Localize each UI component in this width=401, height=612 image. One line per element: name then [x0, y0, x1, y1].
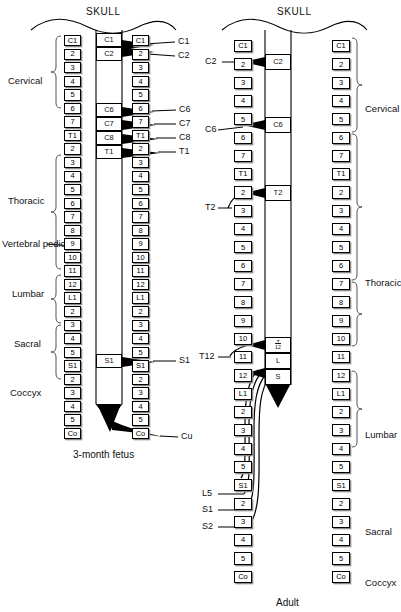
left-inner-vertebra-8: 8: [132, 225, 149, 236]
left-vertebra-4: 4: [64, 333, 81, 344]
left-inner-vertebra-12: 12: [132, 279, 149, 290]
left-nerve-label-c8: C8: [179, 133, 191, 142]
right-nerve-label-t12: T12: [199, 352, 215, 361]
left-inner-vertebra-4: 4: [132, 333, 149, 344]
left-nerve-label-cu: Cu: [181, 432, 193, 441]
right-vertebra-co: Co: [234, 571, 252, 583]
left-vertebra-12: 12: [64, 279, 81, 290]
right-outer-vertebra-l1: L1: [332, 388, 350, 400]
region-label-cervical-right: Cervical: [365, 104, 399, 114]
region-label-thoracic-left: Thoracic: [8, 196, 44, 206]
left-leader-lines: [145, 42, 178, 437]
right-vertebra-3: 3: [234, 424, 252, 436]
right-vertebra-l1: L1: [234, 388, 252, 400]
region-label-coccyx-right: Coccyx: [365, 578, 396, 588]
left-cord-segment-c7: C7: [96, 117, 122, 131]
left-vertebra-5: 5: [64, 414, 81, 425]
right-outer-vertebra-2: 2: [332, 58, 350, 70]
right-conus-tip: [266, 385, 290, 408]
right-panel-caption: Adult: [276, 597, 299, 608]
left-inner-vertebra-4: 4: [132, 76, 149, 87]
left-cord-segment-c8: C8: [96, 131, 122, 145]
right-outer-vertebra-c1: C1: [332, 40, 350, 52]
left-nerve-label-c2: C2: [178, 51, 190, 60]
region-label-cervical-left: Cervical: [8, 76, 42, 86]
right-outer-vertebra-3: 3: [332, 77, 350, 89]
brace-lumbar-right: [352, 282, 362, 346]
right-vertebra-t1: T1: [234, 168, 252, 180]
right-cord-segment-c2: C2: [265, 54, 291, 70]
left-nerve-label-c6: C6: [179, 105, 191, 114]
right-vertebra-4: 4: [234, 95, 252, 107]
left-vertebra-8: 8: [64, 225, 81, 236]
right-outer-vertebra-5: 5: [332, 461, 350, 473]
right-outer-vertebra-6: 6: [332, 132, 350, 144]
left-vertebra-11: 11: [64, 265, 81, 276]
vertebral-pedicles-label: Vertebral pedicles: [2, 238, 48, 249]
left-vertebra-5: 5: [64, 184, 81, 195]
left-inner-vertebra-5: 5: [132, 89, 149, 100]
left-vertebra-5: 5: [64, 347, 81, 358]
left-cord-segment-c1: C1: [96, 33, 122, 47]
region-label-sacral-right: Sacral: [365, 527, 392, 537]
left-vertebra-10: 10: [64, 252, 81, 263]
right-outer-vertebra-9: 9: [332, 315, 350, 327]
left-vertebra-3: 3: [64, 62, 81, 73]
left-vertebra-6: 6: [64, 103, 81, 114]
left-inner-vertebra-6: 6: [132, 198, 149, 209]
left-vertebra-4: 4: [64, 76, 81, 87]
right-vertebra-2: 2: [234, 498, 252, 510]
right-vertebra-7: 7: [234, 278, 252, 290]
right-outer-vertebra-t1: T1: [332, 168, 350, 180]
left-vertebra-s1: S1: [64, 360, 81, 371]
right-outer-vertebra-11: 11: [332, 351, 350, 363]
left-vertebra-2: 2: [64, 374, 81, 385]
right-vertebra-5: 5: [234, 113, 252, 125]
right-vertebra-c1: C1: [234, 40, 252, 52]
left-vertebra-t1: T1: [64, 130, 81, 141]
left-inner-vertebra-co: Co: [132, 428, 149, 439]
left-nerve-label-s1: S1: [179, 356, 190, 365]
right-cord-segment-t12-bottom: 12: [275, 345, 281, 350]
brace-cervical-right: [352, 38, 362, 132]
right-vertebra-2: 2: [234, 58, 252, 70]
brace-lumbar-left: [51, 275, 61, 323]
left-skull-title: SKULL: [86, 6, 121, 17]
left-inner-vertebra-4: 4: [132, 171, 149, 182]
right-cord-outline: [265, 30, 291, 385]
right-skull-title: SKULL: [277, 6, 312, 17]
right-outer-vertebra-s1: S1: [332, 479, 350, 491]
right-vertebra-12: 12: [234, 369, 252, 381]
region-label-coccyx-left: Coccyx: [10, 388, 41, 398]
brace-thoracic-left: [51, 155, 61, 269]
right-nerve-label-s2: S2: [202, 522, 213, 531]
left-inner-vertebra-5: 5: [132, 184, 149, 195]
right-vertebra-10: 10: [234, 333, 252, 345]
left-inner-vertebra-10: 10: [132, 252, 149, 263]
left-inner-vertebra-l1: L1: [132, 292, 149, 303]
left-inner-vertebra-7: 7: [132, 116, 149, 127]
left-panel-caption: 3-month fetus: [73, 449, 134, 460]
brace-thoracic-right: [352, 134, 362, 280]
right-outer-vertebra-co: Co: [332, 571, 350, 583]
right-outer-vertebra-3: 3: [332, 424, 350, 436]
brace-cervical-left: [51, 36, 61, 108]
left-inner-vertebra-s1: S1: [132, 360, 149, 371]
right-cord-segment-s: S: [265, 369, 291, 385]
right-outer-vertebra-4: 4: [332, 443, 350, 455]
right-vertebra-11: 11: [234, 351, 252, 363]
left-skull-curve: [31, 19, 176, 33]
left-vertebra-2: 2: [64, 143, 81, 154]
left-inner-vertebra-5: 5: [132, 347, 149, 358]
right-outer-vertebra-5: 5: [332, 113, 350, 125]
right-nerve-label-l5: L5: [202, 489, 212, 498]
right-outer-vertebra-4: 4: [332, 534, 350, 546]
left-cord-segment-s1: S1: [96, 354, 122, 368]
left-inner-vertebra-2: 2: [132, 49, 149, 60]
right-vertebra-5: 5: [234, 241, 252, 253]
left-vertebra-l1: L1: [64, 292, 81, 303]
left-inner-vertebra-3: 3: [132, 387, 149, 398]
left-cord-segment-c6: C6: [96, 103, 122, 117]
right-vertebra-5: 5: [234, 552, 252, 564]
right-nerve-label-c2: C2: [205, 57, 217, 66]
